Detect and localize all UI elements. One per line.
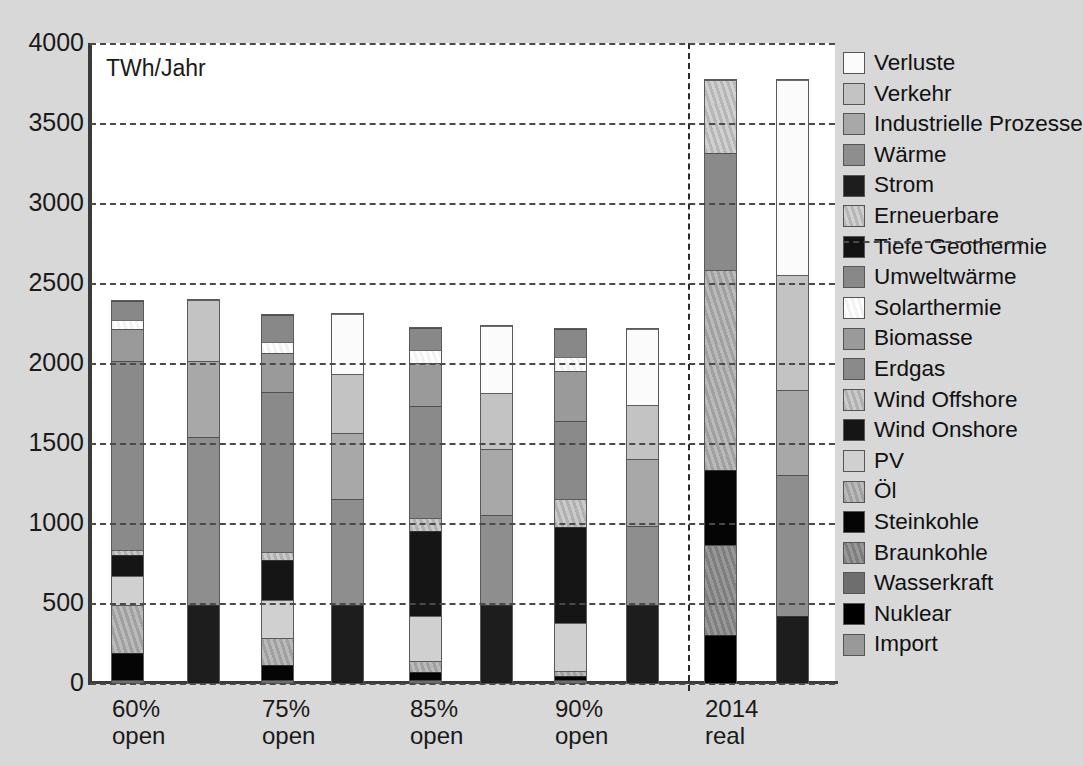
bar-segment	[410, 616, 441, 662]
legend-item[interactable]: Import	[843, 629, 1066, 660]
legend-item[interactable]: Öl	[843, 476, 1066, 507]
legend-swatch	[843, 144, 865, 166]
legend-label: Verkehr	[874, 83, 952, 106]
gridline	[90, 443, 835, 445]
y-axis-tick-labels: 40003500300025002000150010005000	[0, 0, 84, 766]
bar-segment	[705, 270, 736, 470]
legend-swatch	[843, 572, 865, 594]
bar-segment	[777, 390, 808, 475]
stacked-bar	[262, 315, 293, 683]
bar-segment	[112, 653, 143, 680]
legend-item[interactable]: Wärme	[843, 140, 1066, 171]
bar-segment	[555, 623, 586, 671]
legend-item[interactable]: Nuklear	[843, 599, 1066, 630]
legend-swatch	[843, 389, 865, 411]
legend-item[interactable]: Umweltwärme	[843, 262, 1066, 293]
bar-segment	[112, 555, 143, 576]
legend-swatch	[843, 175, 865, 197]
y-axis-tick-label: 4000	[2, 30, 84, 55]
bar-segment	[332, 499, 363, 605]
bar-segment	[262, 665, 293, 679]
bar-segment	[262, 392, 293, 552]
bar-segment	[112, 550, 143, 555]
bar-segment	[481, 449, 512, 515]
bar-segment	[481, 326, 512, 393]
legend-item[interactable]: Industrielle Prozesse	[843, 109, 1066, 140]
legend-label: Import	[874, 633, 938, 656]
y-axis-tick-label: 1000	[2, 510, 84, 535]
bar-segment	[410, 661, 441, 671]
legend-swatch	[843, 328, 865, 350]
bar-segment	[481, 515, 512, 605]
legend-item[interactable]: Biomasse	[843, 323, 1066, 354]
legend-swatch	[843, 236, 865, 258]
legend-item[interactable]: Tiefe Geothermie	[843, 232, 1066, 263]
legend-label: Biomasse	[874, 327, 973, 350]
legend-item[interactable]: Wind Offshore	[843, 385, 1066, 416]
legend-item[interactable]: Steinkohle	[843, 507, 1066, 538]
stacked-bar	[627, 329, 658, 683]
legend-label: Wasserkraft	[874, 572, 993, 595]
bar-segment	[627, 405, 658, 459]
y-axis-tick-label: 500	[2, 590, 84, 615]
legend-item[interactable]: Verluste	[843, 48, 1066, 79]
bar-segment	[262, 552, 293, 560]
legend-label: Erdgas	[874, 358, 945, 381]
legend-item[interactable]: Wasserkraft	[843, 568, 1066, 599]
legend-swatch	[843, 266, 865, 288]
bar-segment	[262, 353, 293, 391]
stacked-bar	[188, 300, 219, 683]
legend-divider	[843, 241, 1023, 243]
bar-segment	[777, 275, 808, 390]
y-axis-tick-label: 0	[2, 670, 84, 695]
legend-swatch	[843, 113, 865, 135]
y-axis-tick-label: 3500	[2, 110, 84, 135]
legend-swatch	[843, 511, 865, 533]
bar-segment	[112, 576, 143, 605]
stacked-bar	[481, 326, 512, 683]
legend-label: Solarthermie	[874, 297, 1002, 320]
bar-segment	[555, 671, 586, 676]
stacked-bar	[777, 80, 808, 683]
y-axis-unit-label: TWh/Jahr	[106, 55, 206, 82]
gridline	[90, 363, 835, 365]
bar-segment	[188, 300, 219, 362]
bar-segment	[112, 320, 143, 330]
bar-segment	[777, 616, 808, 683]
bar-segment	[410, 328, 441, 350]
bar-segment	[481, 393, 512, 448]
legend-label: Tiefe Geothermie	[874, 236, 1047, 259]
x-axis-group-label-line1: 85%	[410, 696, 463, 723]
legend-item[interactable]: Erneuerbare	[843, 201, 1066, 232]
x-axis-group-label: 75%open	[262, 696, 315, 750]
legend-item[interactable]: Wind Onshore	[843, 415, 1066, 446]
bar-segment	[410, 672, 441, 680]
legend-item[interactable]: Braunkohle	[843, 538, 1066, 569]
legend-label: Steinkohle	[874, 511, 979, 534]
stacked-bar	[705, 80, 736, 683]
bar-segment	[705, 635, 736, 683]
bar-segment	[555, 676, 586, 680]
bar-segment	[112, 301, 143, 320]
bar-segment	[332, 314, 363, 374]
bar-segment	[332, 605, 363, 683]
legend-label: Umweltwärme	[874, 266, 1017, 289]
legend-item[interactable]: Solarthermie	[843, 293, 1066, 324]
y-axis-tick-label: 1500	[2, 430, 84, 455]
bar-segment	[262, 638, 293, 665]
legend-item[interactable]: Erdgas	[843, 354, 1066, 385]
x-axis-group-label-line1: 90%	[555, 696, 608, 723]
bar-segment	[705, 545, 736, 635]
legend-label: Wind Offshore	[874, 389, 1017, 412]
legend-item[interactable]: Verkehr	[843, 79, 1066, 110]
bar-segment	[627, 329, 658, 406]
bar-segment	[705, 153, 736, 270]
x-axis-group-label: 85%open	[410, 696, 463, 750]
gridline	[90, 683, 835, 685]
bar-segment	[112, 361, 143, 550]
bar-segment	[410, 363, 441, 406]
bar-segment	[555, 421, 586, 499]
legend-swatch	[843, 603, 865, 625]
legend-item[interactable]: PV	[843, 446, 1066, 477]
legend-item[interactable]: Strom	[843, 170, 1066, 201]
